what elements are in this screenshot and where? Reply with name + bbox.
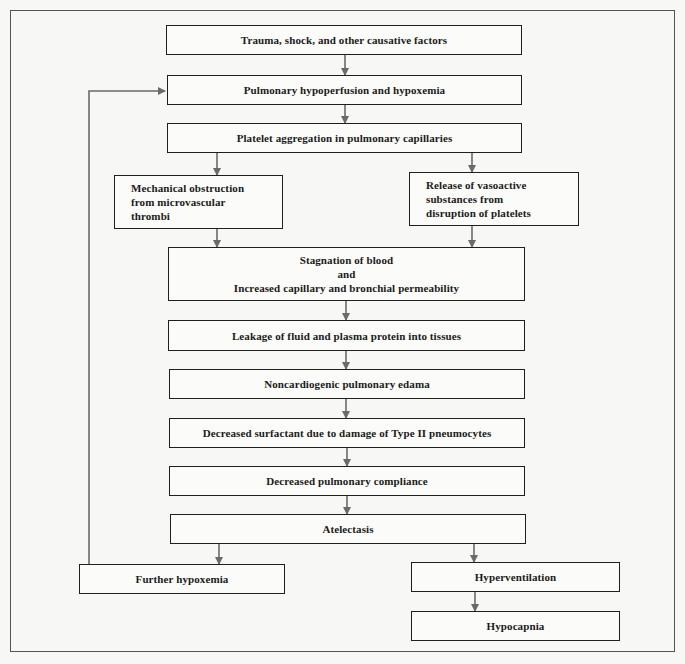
node-mechanical-obstruction: Mechanical obstruction from microvascula… bbox=[114, 175, 283, 229]
node-label: Trauma, shock, and other causative facto… bbox=[241, 33, 447, 47]
node-atelectasis: Atelectasis bbox=[170, 514, 526, 544]
node-label: Decreased pulmonary compliance bbox=[266, 474, 428, 488]
node-leakage: Leakage of fluid and plasma protein into… bbox=[168, 320, 525, 351]
node-label: Hyperventilation bbox=[475, 570, 557, 584]
node-label: Noncardiogenic pulmonary edama bbox=[264, 377, 430, 391]
node-trauma: Trauma, shock, and other causative facto… bbox=[166, 25, 522, 55]
node-label: Pulmonary hypoperfusion and hypoxemia bbox=[244, 83, 445, 97]
node-label: Atelectasis bbox=[322, 522, 373, 536]
node-edema: Noncardiogenic pulmonary edama bbox=[169, 369, 525, 399]
node-vasoactive-release: Release of vasoactive substances from di… bbox=[409, 172, 579, 226]
node-hypoperfusion: Pulmonary hypoperfusion and hypoxemia bbox=[167, 75, 522, 105]
node-label: Release of vasoactive substances from di… bbox=[426, 178, 531, 220]
node-hyperventilation: Hyperventilation bbox=[411, 562, 620, 592]
node-hypocapnia: Hypocapnia bbox=[411, 611, 620, 641]
node-label: Further hypoxemia bbox=[136, 572, 229, 586]
node-label: Decreased surfactant due to damage of Ty… bbox=[203, 426, 492, 440]
node-label: Stagnation of blood and Increased capill… bbox=[234, 253, 459, 295]
node-platelet-aggregation: Platelet aggregation in pulmonary capill… bbox=[167, 123, 522, 153]
node-surfactant: Decreased surfactant due to damage of Ty… bbox=[169, 418, 525, 448]
node-label: Leakage of fluid and plasma protein into… bbox=[232, 329, 461, 343]
node-label: Platelet aggregation in pulmonary capill… bbox=[237, 131, 453, 145]
node-compliance: Decreased pulmonary compliance bbox=[169, 466, 525, 496]
node-stagnation: Stagnation of blood and Increased capill… bbox=[168, 247, 525, 301]
node-label: Mechanical obstruction from microvascula… bbox=[131, 181, 244, 223]
node-label: Hypocapnia bbox=[487, 619, 545, 633]
node-further-hypoxemia: Further hypoxemia bbox=[79, 564, 285, 594]
